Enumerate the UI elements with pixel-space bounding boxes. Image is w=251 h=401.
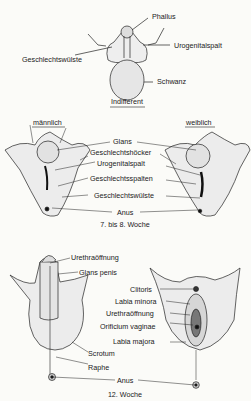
label-geschlechtswuelste: Geschlechtswülste [22,56,82,64]
label-anus-7-8: Anus [117,209,133,217]
week7-8-male-figure [5,125,90,216]
label-geschlechtshoecker: Geschlechtshöcker [90,149,151,157]
week12-male-figure [10,255,88,380]
label-orificium-vaginae: Orificium vaginae [100,323,156,331]
label-phallus: Phallus [152,13,176,21]
indifferent-figure [75,18,170,107]
label-raphe: Raphe [88,364,109,372]
label-schwanz: Schwanz [157,78,186,86]
label-labia-majora: Labia majora [113,338,155,346]
caption-12-woche: 12. Woche [100,391,150,399]
label-anus-12: Anus [117,377,133,385]
label-geschlechtswuelste-7-8: Geschlechtswülste [94,192,154,200]
caption-indifferent: Indifferent [108,98,146,106]
label-urethraoeffnung-male: Urethraöffnung [71,254,119,262]
label-labia-minora: Labia minora [115,298,157,306]
heading-weiblich: weiblich [186,119,212,127]
label-scrotum: Scrotum [88,350,115,358]
label-geschlechtsspalten: Geschlechtsspalten [90,175,153,183]
label-clitoris: Clitoris [130,286,152,294]
label-glans: Glans [113,138,132,146]
label-glans-penis: Glans penis [79,269,117,277]
label-urogenitalspalt: Urogenitalspalt [174,42,222,50]
caption-7-8-woche: 7. bis 8. Woche [90,221,160,229]
heading-maennlich: männlich [33,119,62,127]
diagram-root: Phallus Urogenitalspalt Geschlechtswülst… [0,0,251,401]
week7-8-female-figure [165,127,250,216]
week12-female-figure [150,268,240,388]
label-urethraoeffnung-female: Urethraöffnung [106,310,154,318]
label-urogenitalspalt-7-8: Urogenitalspalt [97,160,145,168]
